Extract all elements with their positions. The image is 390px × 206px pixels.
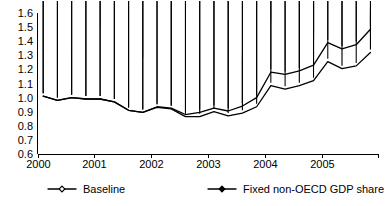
y-tick-label: 1.3 <box>18 49 33 61</box>
x-tick-label: 2005 <box>310 158 334 170</box>
series-baseline <box>43 1 370 115</box>
x-tick-label: 2000 <box>26 158 50 170</box>
x-tick-label: 2001 <box>82 158 106 170</box>
y-tick-label: 0.9 <box>18 106 33 118</box>
x-tick-label: 2002 <box>139 158 163 170</box>
y-tick-label: 1.0 <box>18 92 33 104</box>
legend-open-diamond-icon <box>59 186 65 192</box>
y-tick-label: 0.7 <box>18 134 33 146</box>
chart-legend: BaselineFixed non-OECD GDP share <box>48 183 384 195</box>
x-tick-label: 2003 <box>196 158 220 170</box>
legend-item-label: Fixed non-OECD GDP share <box>243 183 384 195</box>
y-axis-tick-labels: 1.61.51.41.31.21.11.00.90.80.70.6 <box>18 7 33 160</box>
line-chart: 1.61.51.41.31.21.11.00.90.80.70.6 200020… <box>0 0 390 206</box>
series-fixed-non-oecd-gdp-share <box>43 1 370 117</box>
y-tick-label: 1.5 <box>18 21 33 33</box>
y-tick-label: 1.4 <box>18 35 33 47</box>
x-tick-label: 2004 <box>253 158 277 170</box>
chart-figure: 1.61.51.41.31.21.11.00.90.80.70.6 200020… <box>0 0 390 206</box>
x-axis-tick-labels: 200020012002200320042005 <box>26 158 334 170</box>
legend-item-label: Baseline <box>83 183 125 195</box>
series-line <box>43 52 370 116</box>
legend-filled-diamond-icon <box>219 186 225 192</box>
y-tick-label: 1.2 <box>18 63 33 75</box>
series-line <box>43 29 370 114</box>
y-tick-label: 1.1 <box>18 78 33 90</box>
y-tick-label: 0.8 <box>18 120 33 132</box>
y-tick-label: 1.6 <box>18 7 33 19</box>
